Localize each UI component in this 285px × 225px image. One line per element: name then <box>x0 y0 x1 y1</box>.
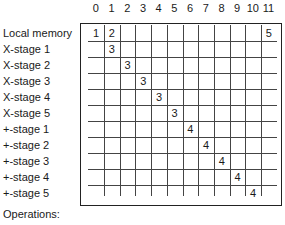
grid-horizontal-line <box>88 137 277 138</box>
column-header: 7 <box>198 2 214 14</box>
grid-cell-value: 2 <box>104 25 120 41</box>
grid-cell-value: 1 <box>88 25 104 41</box>
grid-vertical-line <box>183 25 184 196</box>
row-label: +-stage 5 <box>3 185 49 201</box>
operations-label: Operations: <box>3 208 60 220</box>
grid-cell-value: 4 <box>230 169 246 185</box>
row-label: Local memory <box>3 25 72 41</box>
grid-cell-value: 4 <box>183 121 199 137</box>
grid-cell-value: 3 <box>151 89 167 105</box>
grid-horizontal-line <box>88 169 277 170</box>
column-header: 2 <box>119 2 135 14</box>
grid-horizontal-line <box>88 73 277 74</box>
grid-vertical-line <box>198 25 199 196</box>
column-header: 11 <box>260 2 278 14</box>
row-label: +-stage 1 <box>3 121 49 137</box>
row-label: X-stage 5 <box>3 105 50 121</box>
row-label: X-stage 3 <box>3 73 50 89</box>
grid-cell-value: 4 <box>245 185 261 201</box>
column-header: 5 <box>167 2 183 14</box>
row-label: X-stage 1 <box>3 41 50 57</box>
grid-vertical-line <box>120 25 121 196</box>
grid-horizontal-line <box>88 89 277 90</box>
grid-horizontal-line <box>88 105 277 106</box>
grid-horizontal-line <box>88 57 277 58</box>
row-label: X-stage 2 <box>3 57 50 73</box>
grid-cell-value: 3 <box>167 105 183 121</box>
row-label: X-stage 4 <box>3 89 50 105</box>
column-header: 4 <box>151 2 167 14</box>
grid-cell-value: 3 <box>135 73 151 89</box>
grid-vertical-line <box>261 25 262 196</box>
grid-vertical-line <box>135 25 136 196</box>
column-header: 3 <box>135 2 151 14</box>
row-label: +-stage 2 <box>3 137 49 153</box>
row-label: +-stage 3 <box>3 153 49 169</box>
grid-cell-value: 5 <box>261 25 277 41</box>
column-header: 0 <box>88 2 104 14</box>
column-header: 1 <box>104 2 120 14</box>
column-header: 6 <box>182 2 198 14</box>
row-label: +-stage 4 <box>3 169 49 185</box>
grid-vertical-line <box>214 25 215 196</box>
grid-horizontal-line <box>88 153 277 154</box>
grid-cell-value: 4 <box>214 153 230 169</box>
column-header: 9 <box>229 2 245 14</box>
column-header: 8 <box>214 2 230 14</box>
grid-cell-value: 3 <box>120 57 136 73</box>
grid-vertical-line <box>245 25 246 196</box>
grid-cell-value: 3 <box>104 41 120 57</box>
grid-vertical-line <box>151 25 152 196</box>
grid-cell-value: 4 <box>198 137 214 153</box>
